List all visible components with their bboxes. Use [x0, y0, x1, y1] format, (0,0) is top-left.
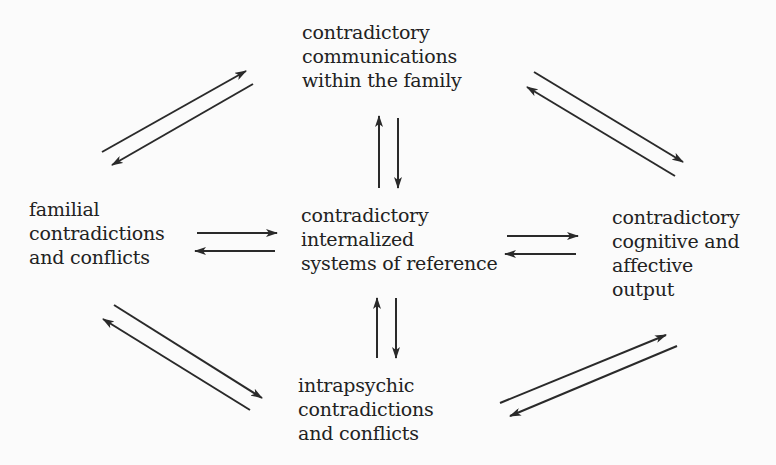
node-left-line-3: and conflicts [29, 245, 165, 269]
node-right-line-2: cognitive and [612, 229, 740, 253]
edge-left-center [195, 233, 277, 251]
arrow-left-to-top [102, 71, 246, 152]
node-left-line-1: familial [29, 197, 165, 221]
node-center: contradictory internalized systems of re… [301, 203, 497, 275]
edge-left-top [102, 71, 253, 165]
arrow-top-to-left [112, 84, 253, 165]
edge-top-right [527, 72, 683, 176]
node-right-line-3: affective [612, 253, 740, 277]
node-center-line-3: systems of reference [301, 251, 497, 275]
node-center-line-1: contradictory [301, 203, 497, 227]
arrow-right-to-top [527, 87, 675, 176]
arrow-left-to-bottom [114, 305, 262, 398]
node-bottom-line-1: intrapsychic [298, 373, 434, 397]
node-top: contradictory communications within the … [302, 20, 462, 92]
edge-center-right [505, 236, 578, 254]
arrow-top-to-right [534, 72, 683, 162]
node-left-line-2: contradictions [29, 221, 165, 245]
arrow-bottom-to-right [500, 335, 666, 403]
node-left: familial contradictions and conflicts [29, 197, 165, 269]
edge-top-center [379, 116, 398, 188]
arrow-bottom-to-left [103, 319, 250, 410]
node-top-line-2: communications [302, 44, 462, 68]
arrow-right-to-bottom [510, 346, 677, 416]
node-center-line-2: internalized [301, 227, 497, 251]
node-bottom-line-3: and conflicts [298, 421, 434, 445]
edge-bottom-right [500, 335, 677, 416]
node-top-line-1: contradictory [302, 20, 462, 44]
node-right-line-4: output [612, 277, 740, 301]
edge-center-bottom [377, 298, 396, 358]
node-right: contradictory cognitive and affective ou… [612, 205, 740, 301]
edge-left-bottom [103, 305, 262, 410]
node-bottom: intrapsychic contradictions and conflict… [298, 373, 434, 445]
node-top-line-3: within the family [302, 68, 462, 92]
node-right-line-1: contradictory [612, 205, 740, 229]
node-bottom-line-2: contradictions [298, 397, 434, 421]
